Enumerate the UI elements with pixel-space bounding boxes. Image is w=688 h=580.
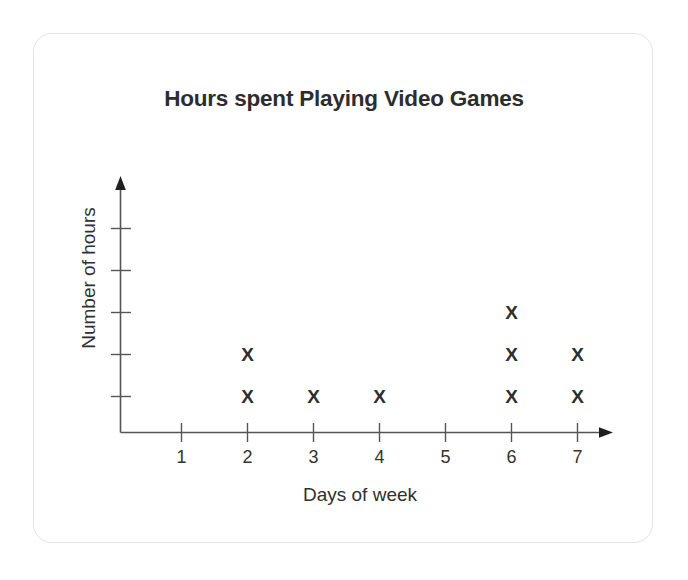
datapoint-day6-level1: X — [500, 385, 524, 409]
datapoint-day2-level1: X — [236, 385, 260, 409]
x-tick-label-6: 6 — [499, 447, 525, 468]
datapoint-day7-level2: X — [566, 343, 590, 367]
x-tick-label-1: 1 — [169, 447, 195, 468]
x-tick-label-2: 2 — [235, 447, 261, 468]
y-axis-title: Number of hours — [78, 148, 100, 408]
x-tick-label-4: 4 — [367, 447, 393, 468]
x-axis-arrowhead — [599, 427, 613, 438]
datapoint-day4-level1: X — [368, 385, 392, 409]
x-tick-label-7: 7 — [565, 447, 591, 468]
datapoint-day6-level3: X — [500, 301, 524, 325]
datapoint-day3-level1: X — [302, 385, 326, 409]
datapoint-day7-level1: X — [566, 385, 590, 409]
x-axis-title: Days of week — [200, 484, 520, 506]
chart-screenshot: Hours spent Playing Video Games — [0, 0, 688, 580]
x-tick-label-5: 5 — [433, 447, 459, 468]
datapoint-day2-level2: X — [236, 343, 260, 367]
datapoint-day6-level2: X — [500, 343, 524, 367]
y-axis-arrowhead — [115, 176, 126, 190]
x-tick-label-3: 3 — [301, 447, 327, 468]
